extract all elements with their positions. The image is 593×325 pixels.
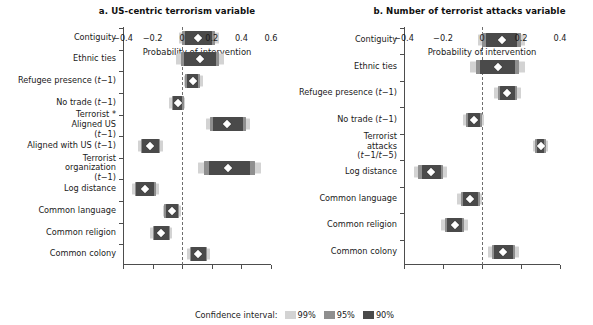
x-tick-label: 0.4 <box>235 33 248 43</box>
x-tick-mark <box>404 265 405 269</box>
x-tick-label: −0.2 <box>433 33 453 43</box>
y-tick-mark <box>400 107 404 108</box>
y-axis-category-label: Terrorist attacks (t−1/t−5) <box>333 132 397 161</box>
legend-entry-95: 95% <box>324 310 355 320</box>
legend-label-90: 90% <box>376 310 394 320</box>
x-tick-mark <box>443 265 444 269</box>
y-tick-mark <box>119 244 123 245</box>
y-axis-category-label: Ethnic ties <box>354 62 397 72</box>
x-tick-mark <box>182 265 183 269</box>
y-axis-category-label: Common colony <box>50 249 116 259</box>
x-tick-mark <box>521 265 522 269</box>
y-tick-mark <box>400 187 404 188</box>
y-axis-category-label: Refugee presence (t−1) <box>18 76 116 86</box>
y-axis-category-label: Ethnic ties <box>73 55 116 65</box>
legend-entry-90: 90% <box>363 310 394 320</box>
x-tick-mark <box>153 265 154 269</box>
x-tick-mark <box>560 265 561 269</box>
y-axis-category-label: Aligned with US (t−1) <box>27 141 116 151</box>
x-tick-label: 0 <box>180 33 185 43</box>
panel-a-y-axis <box>123 27 124 265</box>
x-tick-label: 0.2 <box>514 33 527 43</box>
x-tick-label: 0.2 <box>205 33 218 43</box>
y-tick-mark <box>119 115 123 116</box>
x-tick-label: −0.4 <box>394 33 414 43</box>
panel-b-y-axis <box>404 27 405 265</box>
x-tick-label: 0.4 <box>553 33 566 43</box>
y-axis-category-label: Contiguity <box>74 33 116 43</box>
y-axis-category-label: Common colony <box>331 247 397 257</box>
y-tick-mark <box>400 240 404 241</box>
legend-entry-99: 99% <box>285 310 316 320</box>
x-tick-mark <box>123 265 124 269</box>
y-axis-category-label: Common language <box>319 194 397 204</box>
y-axis-category-label: Log distance <box>345 168 397 178</box>
y-axis-category-label: Common language <box>38 206 116 216</box>
y-tick-mark <box>119 28 123 29</box>
y-tick-mark <box>119 179 123 180</box>
legend-title: Confidence interval: <box>195 310 278 320</box>
y-axis-category-label: Refugee presence (t−1) <box>299 88 397 98</box>
y-tick-mark <box>400 134 404 135</box>
y-tick-mark <box>119 223 123 224</box>
x-tick-label: −0.4 <box>113 33 133 43</box>
x-tick-label: 0 <box>479 33 484 43</box>
y-axis-category-label: Terrorist * Aligned US (t−1) <box>52 110 116 139</box>
y-axis-category-label: Terrorist organization (t−1) <box>52 153 116 182</box>
y-tick-mark <box>400 54 404 55</box>
y-tick-mark <box>119 71 123 72</box>
y-tick-mark <box>400 28 404 29</box>
legend-swatch-99 <box>285 311 296 319</box>
y-axis-category-label: No trade (t−1) <box>56 98 116 108</box>
legend-label-95: 95% <box>337 310 355 320</box>
y-tick-mark <box>119 93 123 94</box>
panel-b-title: b. Number of terrorist attacks variable <box>296 6 593 16</box>
panel-a-x-axis <box>123 264 271 265</box>
y-tick-mark <box>119 201 123 202</box>
panel-b: b. Number of terrorist attacks variable … <box>296 0 593 300</box>
y-axis-category-label: Common religion <box>46 228 116 238</box>
y-tick-mark <box>400 213 404 214</box>
y-tick-mark <box>119 50 123 51</box>
legend-label-99: 99% <box>298 310 316 320</box>
panel-b-x-axis-label: Probability of intervention <box>404 47 560 57</box>
panel-a-plot-area: Probability of intervention ContiguityEt… <box>123 27 271 265</box>
panel-a-title: a. US-centric terrorism variable <box>0 6 296 16</box>
y-axis-category-label: Contiguity <box>355 35 397 45</box>
y-axis-category-label: No trade (t−1) <box>337 115 397 125</box>
legend-swatch-90 <box>363 311 374 319</box>
panel-a: a. US-centric terrorism variable Probabi… <box>0 0 296 300</box>
panel-b-plot-area: Probability of intervention ContiguityEt… <box>404 27 560 265</box>
x-tick-mark <box>482 265 483 269</box>
legend-swatch-95 <box>324 311 335 319</box>
x-tick-label: −0.2 <box>143 33 163 43</box>
y-tick-mark <box>400 160 404 161</box>
coefficient-plot-figure: a. US-centric terrorism variable Probabi… <box>0 0 593 325</box>
legend: Confidence interval: 99% 95% 90% <box>0 310 593 320</box>
x-tick-mark <box>271 265 272 269</box>
y-tick-mark <box>119 158 123 159</box>
y-axis-category-label: Common religion <box>327 221 397 231</box>
y-axis-category-label: Log distance <box>64 184 116 194</box>
x-tick-label: 0.6 <box>264 33 277 43</box>
x-tick-mark <box>212 265 213 269</box>
y-tick-mark <box>400 81 404 82</box>
y-tick-mark <box>119 136 123 137</box>
x-tick-mark <box>241 265 242 269</box>
